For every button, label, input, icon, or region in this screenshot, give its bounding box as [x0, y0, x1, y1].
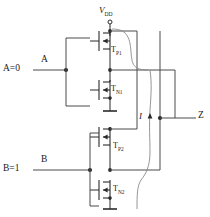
- current-path-curve-middle: [150, 70, 152, 152]
- input-a-state-label: A=0: [3, 64, 20, 74]
- tp1-bulk-arrow-icon: [103, 39, 108, 44]
- gate-bus-a: [66, 38, 90, 106]
- vdd-terminal-node: [108, 20, 112, 24]
- device-label-tn2: TN2: [113, 185, 124, 195]
- input-b-state-label: B=1: [3, 164, 19, 174]
- tn2-bulk-arrow-icon: [103, 188, 108, 193]
- tn1-sub: N1: [116, 89, 123, 95]
- device-label-tp1: TP1: [111, 46, 122, 56]
- tn1-source-node-dot: [108, 96, 112, 100]
- tp2-bulk-arrow-icon: [103, 135, 108, 140]
- tn1-bulk-arrow-icon: [103, 88, 108, 93]
- output-z-label: Z: [198, 111, 204, 121]
- tp1-sub: P1: [116, 50, 122, 56]
- device-label-tp2: TP2: [113, 142, 124, 152]
- input-a-pin-label: A: [41, 55, 48, 65]
- current-direction-arrow-icon: [148, 113, 153, 118]
- input-b-pin-label: B: [41, 155, 47, 165]
- current-label: I: [139, 112, 142, 121]
- schematic-canvas: [0, 0, 210, 217]
- device-label-tn1: TN1: [111, 85, 122, 95]
- vdd-label: VDD: [99, 6, 113, 17]
- vdd-subscript: DD: [105, 11, 113, 17]
- tn2-sub: N2: [118, 189, 125, 195]
- tp2-sub: P2: [118, 146, 124, 152]
- current-path-curve-lower: [137, 152, 150, 209]
- circuit-diagram: VDD A=0 A B=1 B Z I TP1 TN1 TP2 TN2: [0, 0, 210, 217]
